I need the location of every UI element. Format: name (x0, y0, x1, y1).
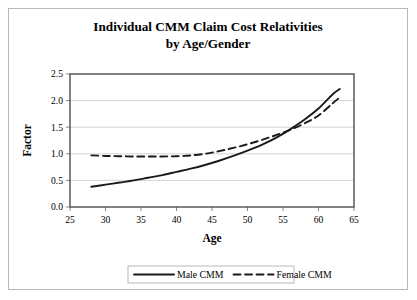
chart-figure: Individual CMM Claim Cost Relativitiesby… (8, 8, 408, 290)
x-tick-label: 50 (243, 214, 253, 225)
x-tick-label: 35 (136, 214, 146, 225)
x-tick-label: 60 (314, 214, 324, 225)
y-tick-label: 0.5 (51, 175, 63, 186)
series-line-male-cmm (91, 89, 339, 187)
x-tick-label: 40 (172, 214, 182, 225)
x-tick-label: 55 (278, 214, 288, 225)
x-axis-title: Age (202, 232, 221, 245)
y-tick-label: 0.0 (51, 201, 63, 212)
chart-title: Individual CMM Claim Cost Relativities (93, 19, 322, 34)
x-tick-label: 65 (349, 214, 359, 225)
y-tick-label: 1.0 (51, 148, 63, 159)
y-tick-label: 1.5 (51, 122, 63, 133)
legend-label: Male CMM (177, 269, 224, 280)
x-tick-label: 25 (65, 214, 75, 225)
legend-label: Female CMM (277, 269, 333, 280)
y-axis-title: Factor (21, 124, 33, 157)
plot-area-frame (70, 74, 354, 207)
x-tick-label: 45 (207, 214, 217, 225)
chart-canvas: Individual CMM Claim Cost Relativitiesby… (9, 9, 407, 289)
x-tick-label: 30 (101, 214, 111, 225)
y-tick-label: 2.0 (51, 95, 63, 106)
chart-subtitle: by Age/Gender (166, 36, 251, 51)
y-tick-label: 2.5 (51, 68, 63, 79)
